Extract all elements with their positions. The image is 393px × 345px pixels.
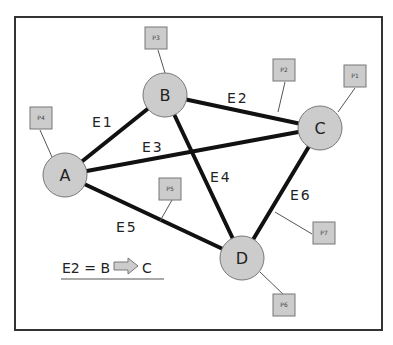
- port-p3-label: P3: [152, 34, 160, 41]
- port-p7-label: P7: [320, 229, 328, 236]
- edge-e3-label: E3: [142, 139, 164, 155]
- port-p6-label: P6: [280, 301, 288, 308]
- edge-e2-label: E2: [227, 90, 249, 106]
- port-p2-label: P2: [280, 66, 288, 73]
- node-b-label: B: [160, 86, 171, 105]
- edge-e4-label: E4: [210, 169, 232, 185]
- edge-e5-label: E5: [116, 219, 138, 235]
- edge-e6-label: E6: [290, 187, 312, 203]
- node-d-label: D: [236, 249, 248, 268]
- legend-rhs: C: [142, 260, 152, 276]
- port-p1-label: P1: [351, 72, 359, 79]
- edge-e1-label: E1: [92, 114, 114, 130]
- port-p5-label: P5: [166, 185, 174, 192]
- network-diagram: A B C D E1 E2 E3 E4 E5 E6 P3 P2 P1 P4 P5…: [0, 0, 393, 345]
- node-c-label: C: [314, 119, 325, 138]
- legend-lhs: E2 = B: [62, 260, 110, 276]
- node-a-label: A: [60, 166, 71, 185]
- port-p4-label: P4: [37, 114, 45, 121]
